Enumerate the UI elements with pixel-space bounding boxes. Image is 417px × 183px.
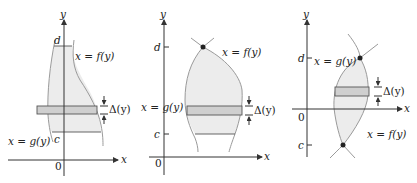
area-between-curves-diagram: y x 0 d c x = f(y) x = g(y) Δ(y) y x 0 — [0, 0, 417, 183]
x-axis-label: x — [404, 102, 410, 114]
y-axis-label: y — [159, 8, 167, 20]
right-curve-label: x = f(y) — [222, 46, 261, 58]
left-curve-label: x = g(y) — [8, 135, 50, 147]
delta-indicator — [100, 96, 108, 124]
strip-rectangle — [335, 87, 369, 96]
upper-bound-label: d — [54, 34, 61, 46]
delta-indicator — [374, 77, 382, 106]
y-axis-label: y — [302, 8, 310, 20]
left-curve-label: x = g(y) — [314, 55, 356, 67]
origin-label: 0 — [155, 157, 162, 169]
left-curve-label: x = g(y) — [141, 101, 183, 113]
lower-bound-label: c — [154, 128, 160, 140]
origin-label: 0 — [55, 160, 62, 172]
x-axis-label: x — [264, 150, 270, 162]
y-axis-label: y — [59, 8, 67, 20]
right-curve-label: x = f(y) — [367, 128, 406, 140]
x-axis-label: x — [121, 153, 127, 165]
lower-bound-label: c — [54, 133, 60, 145]
intersection-point-top — [201, 45, 206, 50]
strip-label: Δ(y) — [383, 85, 405, 97]
origin-label: 0 — [298, 111, 305, 123]
upper-bound-label: d — [298, 52, 305, 64]
lower-bound-label: c — [298, 139, 304, 151]
strip-label: Δ(y) — [109, 103, 131, 115]
strip-rectangle — [37, 106, 97, 114]
intersection-point-top — [358, 56, 363, 61]
delta-indicator — [245, 96, 253, 125]
right-curve-label: x = f(y) — [75, 50, 114, 62]
shaded-region — [334, 58, 368, 145]
panel-2: y x 0 d c x = f(y) x = g(y) Δ(y) — [141, 8, 276, 175]
strip-label: Δ(y) — [254, 104, 276, 116]
panel-1: y x 0 d c x = f(y) x = g(y) Δ(y) — [8, 8, 131, 176]
intersection-point-bottom — [341, 143, 346, 148]
panel-3: y x 0 d c x = g(y) x = f(y) Δ(y) — [292, 8, 410, 158]
strip-rectangle — [187, 106, 242, 115]
upper-bound-label: d — [154, 41, 161, 53]
